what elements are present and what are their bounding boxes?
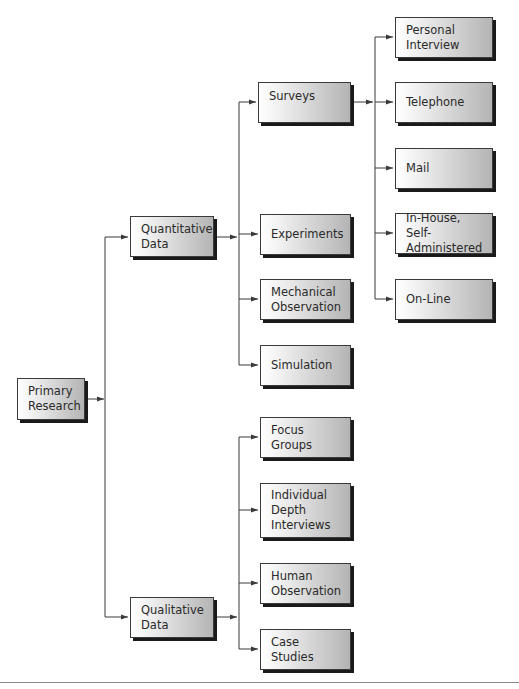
node-individual-depth-interviews: Individual Depth Interviews: [260, 483, 351, 538]
node-label: Case Studies: [271, 635, 344, 665]
node-quantitative-data: Quantitative Data: [130, 216, 214, 257]
node-label: Human Observation: [271, 569, 341, 599]
node-label: Primary Research: [28, 384, 81, 414]
node-case-studies: Case Studies: [260, 629, 351, 670]
node-mechanical-observation: Mechanical Observation: [260, 279, 351, 320]
node-simulation: Simulation: [260, 345, 351, 386]
node-label: In-House, Self- Administered: [406, 211, 486, 256]
node-label: Surveys: [269, 89, 315, 104]
node-human-observation: Human Observation: [260, 563, 351, 604]
primary-research-diagram: Primary Research Quantitative Data Quali…: [0, 0, 519, 689]
node-qualitative-data: Qualitative Data: [130, 597, 214, 638]
node-focus-groups: Focus Groups: [260, 417, 351, 458]
node-in-house-self-administered: In-House, Self- Administered: [395, 213, 493, 254]
node-label: Mail: [406, 161, 429, 176]
node-label: Mechanical Observation: [271, 285, 341, 315]
node-label: Personal Interview: [406, 23, 459, 53]
node-label: On-Line: [406, 292, 450, 307]
node-surveys: Surveys: [258, 82, 351, 123]
node-personal-interview: Personal Interview: [395, 17, 493, 58]
node-label: Qualitative Data: [141, 603, 204, 633]
node-experiments: Experiments: [260, 214, 351, 255]
node-label: Focus Groups: [271, 423, 344, 453]
node-telephone: Telephone: [395, 82, 493, 123]
node-label: Simulation: [271, 358, 332, 373]
bottom-divider: [0, 682, 519, 683]
node-label: Individual Depth Interviews: [271, 488, 330, 533]
node-primary-research: Primary Research: [17, 378, 85, 420]
node-label: Experiments: [271, 227, 343, 242]
node-label: Quantitative Data: [141, 222, 213, 252]
node-on-line: On-Line: [395, 279, 493, 320]
node-mail: Mail: [395, 148, 493, 189]
node-label: Telephone: [406, 95, 464, 110]
